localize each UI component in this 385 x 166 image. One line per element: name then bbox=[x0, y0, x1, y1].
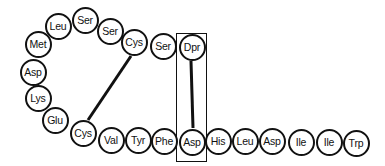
residue-ser: Ser bbox=[150, 33, 177, 60]
residue-tyr: Tyr bbox=[125, 127, 152, 154]
residue-his: His bbox=[205, 128, 232, 155]
residue-glu: Glu bbox=[42, 107, 69, 134]
residue-leu: Leu bbox=[45, 13, 72, 40]
residue-leu: Leu bbox=[232, 128, 259, 155]
residue-dpr: Dpr bbox=[179, 34, 206, 61]
residue-asp: Asp bbox=[179, 129, 206, 156]
residue-phe: Phe bbox=[151, 128, 178, 155]
residue-val: Val bbox=[98, 127, 125, 154]
residue-ser: Ser bbox=[72, 7, 99, 34]
bond-line bbox=[88, 56, 131, 120]
residue-cys: Cys bbox=[121, 29, 148, 56]
residue-asp: Asp bbox=[20, 59, 47, 86]
residue-ile: Ile bbox=[288, 129, 315, 156]
residue-trp: Trp bbox=[343, 130, 370, 157]
residue-ser: Ser bbox=[97, 18, 124, 45]
residue-cys: Cys bbox=[70, 120, 97, 147]
residue-asp: Asp bbox=[259, 128, 286, 155]
residue-lys: Lys bbox=[25, 85, 52, 112]
residue-ile: Ile bbox=[316, 129, 343, 156]
peptide-diagram: MetLeuSerSerCysSerDprAspLysGluCysValTyrP… bbox=[0, 0, 385, 166]
